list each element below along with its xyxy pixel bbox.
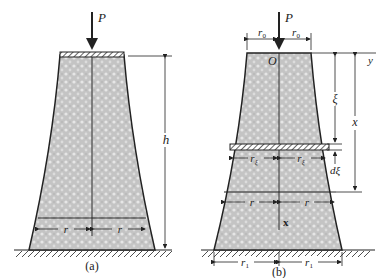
panel-a: r r P h (a) (14, 10, 172, 273)
load-label-b: P (284, 10, 293, 25)
y-axis-label-b: y (367, 54, 373, 66)
radius-label-left-a: r (64, 223, 69, 235)
load-plate-a (60, 52, 124, 57)
ground-hatch-b (202, 251, 370, 257)
radius-label-right-a: r (118, 223, 123, 235)
origin-label-b: O (268, 54, 277, 68)
load-label-a: P (97, 10, 106, 25)
radius-label-right-b: r (305, 196, 310, 208)
pier-body-b (214, 53, 342, 250)
x-dim-label-b: x (351, 115, 358, 129)
radius-label-left-b: r (250, 196, 255, 208)
ground-hatch-a (16, 251, 172, 257)
xi-label-b: ξ (332, 92, 338, 106)
height-label-a: h (163, 132, 170, 147)
x-axis-label-b: x (283, 216, 289, 228)
panel-b: x O rξ rξ r r P r0 r0 y ξ (201, 10, 376, 278)
dxi-label-b: dξ (330, 164, 341, 177)
r0-label-right-b: r0 (292, 26, 300, 40)
caption-b: (b) (272, 265, 286, 278)
r0-label-left-b: r0 (258, 26, 266, 40)
caption-a: (a) (85, 259, 98, 273)
pier-diagram: r r P h (a) (0, 0, 386, 278)
slice-element-b (230, 144, 329, 150)
